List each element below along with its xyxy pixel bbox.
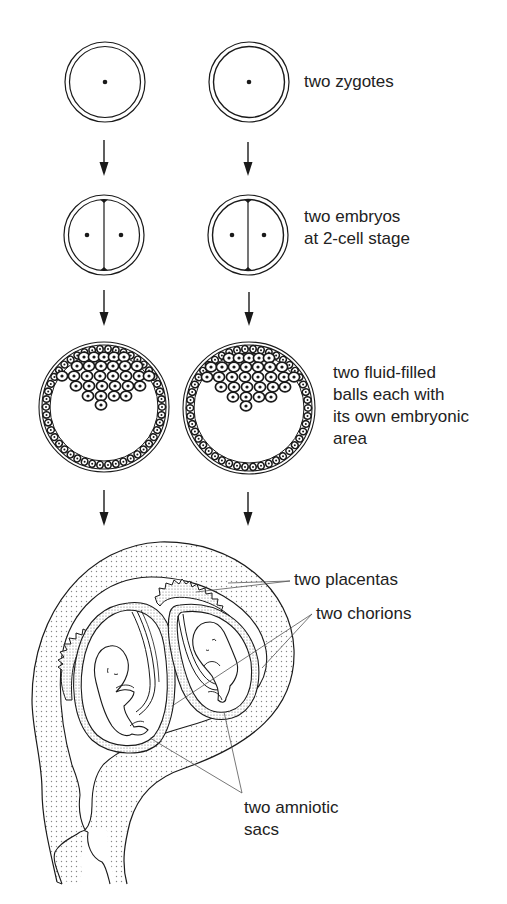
- label-amniotic-line1: two amniotic: [244, 797, 338, 819]
- label-blastocyst-line4: area: [333, 428, 367, 450]
- zygote-left: [65, 42, 145, 122]
- arrow-down-icon: [100, 490, 109, 526]
- two-cell-embryo-left: [64, 195, 144, 275]
- label-blastocyst-line2: balls each with: [333, 384, 445, 406]
- label-blastocyst-line3: its own embryonic: [333, 406, 469, 428]
- arrow-down-icon: [100, 140, 109, 176]
- label-placentas: two placentas: [294, 569, 398, 591]
- two-cell-embryo-right: [208, 195, 288, 275]
- blastocyst-left: [39, 342, 169, 472]
- label-two-cell-line2: at 2-cell stage: [304, 228, 410, 250]
- arrow-down-icon: [100, 290, 109, 326]
- label-chorions: two chorions: [316, 603, 411, 625]
- arrow-down-icon: [244, 142, 253, 176]
- blastocyst-right: [183, 342, 315, 474]
- label-amniotic-line2: sacs: [244, 819, 279, 841]
- arrow-down-icon: [245, 292, 254, 326]
- label-two-cell-line1: two embryos: [304, 206, 400, 228]
- label-blastocyst-line1: two fluid-filled: [333, 362, 436, 384]
- twin-development-diagram: [0, 0, 507, 904]
- label-zygotes: two zygotes: [304, 71, 394, 93]
- arrow-down-icon: [244, 492, 253, 526]
- zygote-right: [209, 42, 289, 122]
